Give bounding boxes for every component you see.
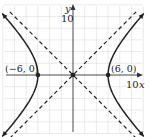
point-marker xyxy=(71,73,76,78)
y-tick-label: 10 xyxy=(61,13,74,24)
x-tick-label: 10 xyxy=(126,79,139,90)
point-marker xyxy=(106,73,111,78)
x-axis-label: x xyxy=(139,79,145,90)
x-axis-arrow-icon xyxy=(137,73,143,78)
left-vertex-label: (−6, 0) xyxy=(5,63,39,74)
hyperbola-graph: y 10 10 x (−6, 0) (6, 0) xyxy=(0,0,150,137)
right-vertex-label: (6, 0) xyxy=(111,63,137,74)
